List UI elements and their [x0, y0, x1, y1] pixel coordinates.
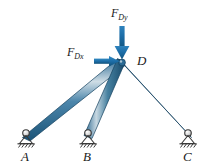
node-label-C: C — [183, 150, 192, 163]
member-AD — [23, 59, 126, 142]
force-label-FDx-subscript: Dx — [74, 52, 83, 61]
truss-figure: FDy FDx D A B C — [0, 0, 214, 167]
force-label-FDx: FDx — [67, 46, 84, 61]
node-label-B: B — [83, 150, 91, 163]
member-CD — [119, 59, 192, 138]
node-label-D: D — [137, 54, 146, 67]
force-label-FDy-subscript: Dy — [118, 13, 127, 22]
force-label-FDy: FDy — [111, 7, 128, 22]
force-arrow-FDy — [115, 26, 130, 60]
joint-D-highlight — [120, 60, 122, 62]
node-label-A: A — [21, 150, 29, 163]
truss-diagram-canvas — [0, 0, 214, 167]
joint-D-pin — [119, 59, 126, 66]
support-C — [180, 130, 197, 148]
